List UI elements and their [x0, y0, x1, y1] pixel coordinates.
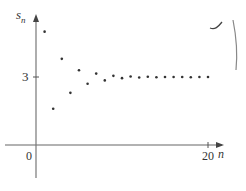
- data-point: [43, 30, 46, 33]
- x-axis-label: n: [218, 147, 224, 162]
- data-point: [164, 76, 167, 79]
- data-point: [198, 76, 201, 79]
- origin-label: 0: [26, 149, 32, 164]
- y-axis-arrow: [33, 14, 39, 22]
- decorative-curve: [210, 22, 222, 29]
- data-point: [112, 75, 115, 78]
- data-point: [61, 58, 64, 61]
- data-point: [207, 76, 210, 79]
- data-point: [147, 75, 150, 78]
- data-point: [181, 76, 184, 79]
- decorative-bracket: [233, 20, 237, 70]
- data-point: [69, 92, 72, 95]
- data-point: [138, 76, 141, 79]
- data-point: [172, 76, 175, 79]
- data-points: [43, 30, 209, 110]
- data-point: [104, 79, 107, 82]
- data-point: [121, 77, 124, 80]
- data-point: [52, 107, 55, 110]
- data-point: [95, 72, 98, 75]
- data-point: [155, 76, 158, 79]
- data-point: [129, 75, 132, 78]
- y-axis-label: sn: [16, 7, 26, 25]
- y-tick-label-3: 3: [22, 69, 29, 85]
- data-point: [78, 69, 81, 72]
- x-tick-label-20: 20: [202, 149, 214, 164]
- data-point: [86, 83, 89, 86]
- data-point: [190, 76, 193, 79]
